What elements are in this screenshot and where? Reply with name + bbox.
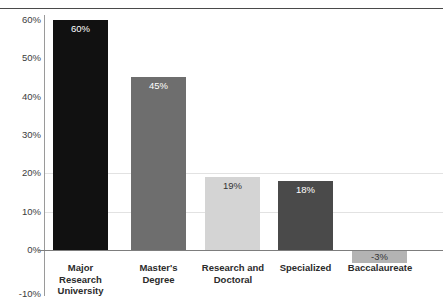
category-label-line-3: University <box>53 285 108 297</box>
category-label-line-1: Master's <box>131 262 186 274</box>
category-label-line-1: Specialized <box>273 262 338 274</box>
category-label-line-2: Degree <box>131 274 186 286</box>
category-label-line-1: Baccalaureate <box>345 262 415 274</box>
category-label-research-and-doctoral: Research and Doctoral <box>198 262 268 285</box>
category-label-masters-degree: Master's Degree <box>131 262 186 285</box>
category-label-specialized: Specialized <box>273 262 338 274</box>
plot-area: 60% 50% 40% 30% 20% 10% 0% -10% 60% 45% <box>0 0 443 304</box>
category-label-line-2: Doctoral <box>198 274 268 286</box>
category-label-line-2: Research <box>53 274 108 286</box>
x-axis-category-labels: Major Research University Master's Degre… <box>0 0 443 304</box>
category-label-baccalaureate: Baccalaureate <box>345 262 415 274</box>
category-label-major-research-university: Major Research University <box>53 262 108 297</box>
category-label-line-1: Research and <box>198 262 268 274</box>
category-label-line-1: Major <box>53 262 108 274</box>
chart-screenshot: 60% 50% 40% 30% 20% 10% 0% -10% 60% 45% <box>0 0 443 304</box>
